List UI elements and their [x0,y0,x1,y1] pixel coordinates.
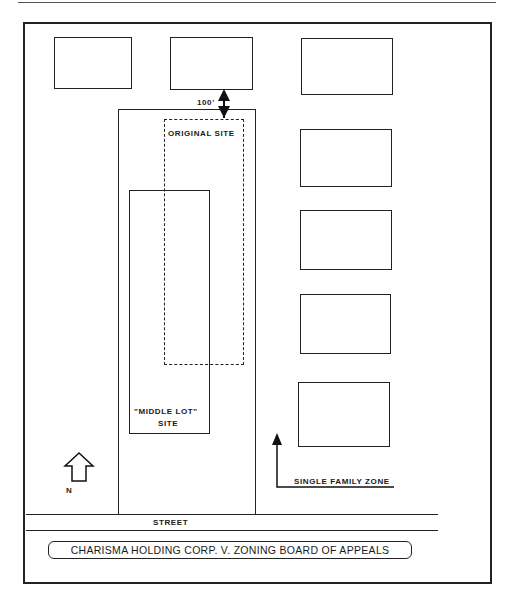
diagram-caption: CHARISMA HOLDING CORP. V. ZONING BOARD O… [48,541,412,559]
zone-pointer-arrow-icon [0,0,512,606]
street-edge-south [26,530,438,531]
street-edge-north [26,514,438,515]
single-family-zone-label: SINGLE FAMILY ZONE [294,477,390,486]
street-label: STREET [153,518,188,527]
